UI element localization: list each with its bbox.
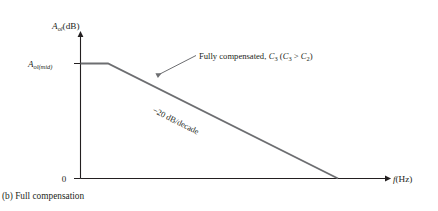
y-axis-label: Aol(dB) — [51, 21, 79, 32]
y-tick-label-zero: 0 — [62, 174, 67, 184]
curve-annotation-text: Fully compensated, — [199, 51, 266, 61]
x-axis-unit: (Hz) — [396, 174, 413, 184]
bode-plot-figure: Aol(dB) f(Hz) Aol(mid) 0 Fully compensat… — [0, 0, 438, 211]
aolmid-subscript: ol(mid) — [34, 63, 53, 71]
figure-caption: (b) Full compensation — [2, 191, 84, 201]
curve-annotation-gt: > — [292, 51, 301, 61]
curve-annotation-paren-close: ) — [310, 51, 313, 61]
y-axis-unit: (dB) — [63, 21, 80, 31]
bode-plot-svg: Aol(dB) f(Hz) Aol(mid) 0 Fully compensat… — [0, 0, 438, 211]
curve-annotation-c-sub: 3 — [274, 55, 277, 62]
curve-annotation-label: Fully compensated,C3(C3 > C2) — [199, 51, 313, 62]
x-axis-label: f(Hz) — [393, 174, 412, 184]
